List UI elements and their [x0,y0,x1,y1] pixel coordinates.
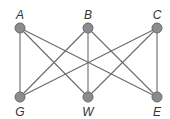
node-w [83,92,93,102]
node-b [83,23,93,33]
bipartite-graph: ABCGWE [0,0,170,119]
node-a [15,23,25,33]
node-g [15,92,25,102]
node-e [152,92,162,102]
node-label-w: W [82,105,95,119]
node-label-g: G [15,105,24,119]
node-c [152,23,162,33]
node-label-e: E [153,105,162,119]
node-label-a: A [15,8,24,22]
node-label-c: C [153,8,162,22]
node-label-b: B [84,8,92,22]
edges-group [20,28,157,97]
